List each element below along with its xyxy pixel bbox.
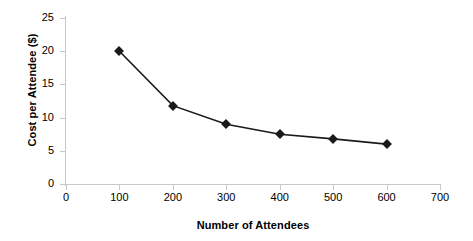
x-tick-label: 200 <box>148 192 198 203</box>
y-axis-line <box>65 16 66 186</box>
y-tick-mark <box>60 151 65 152</box>
x-tick-label: 600 <box>362 192 412 203</box>
y-tick-label: 20 <box>12 45 54 56</box>
x-axis-line <box>65 184 441 185</box>
y-tick-label: 15 <box>12 78 54 89</box>
y-tick-label: 25 <box>12 12 54 23</box>
x-tick-mark <box>387 185 388 190</box>
x-tick-label: 500 <box>308 192 358 203</box>
x-axis-title: Number of Attendees <box>66 219 440 231</box>
y-tick-label: 10 <box>12 112 54 123</box>
y-tick-mark <box>60 84 65 85</box>
data-point-marker <box>114 46 124 56</box>
y-tick-mark <box>60 118 65 119</box>
x-tick-label: 300 <box>201 192 251 203</box>
data-point-marker <box>221 119 231 129</box>
x-tick-mark <box>66 185 67 190</box>
x-tick-mark <box>173 185 174 190</box>
y-tick-label: 5 <box>12 145 54 156</box>
x-tick-mark <box>440 185 441 190</box>
data-point-marker <box>328 134 338 144</box>
y-tick-mark <box>60 51 65 52</box>
y-tick-mark <box>60 184 65 185</box>
x-tick-mark <box>226 185 227 190</box>
x-tick-label: 700 <box>415 192 465 203</box>
y-tick-label: 0 <box>12 178 54 189</box>
x-tick-label: 400 <box>255 192 305 203</box>
data-point-marker <box>275 129 285 139</box>
x-tick-mark <box>333 185 334 190</box>
data-point-marker <box>382 139 392 149</box>
line-chart: Cost per Attendee ($) Number of Attendee… <box>0 0 473 241</box>
y-tick-mark <box>60 18 65 19</box>
x-tick-label: 0 <box>41 192 91 203</box>
data-point-marker <box>168 101 178 111</box>
series-line <box>0 0 473 241</box>
x-tick-mark <box>119 185 120 190</box>
x-tick-mark <box>280 185 281 190</box>
x-tick-label: 100 <box>94 192 144 203</box>
